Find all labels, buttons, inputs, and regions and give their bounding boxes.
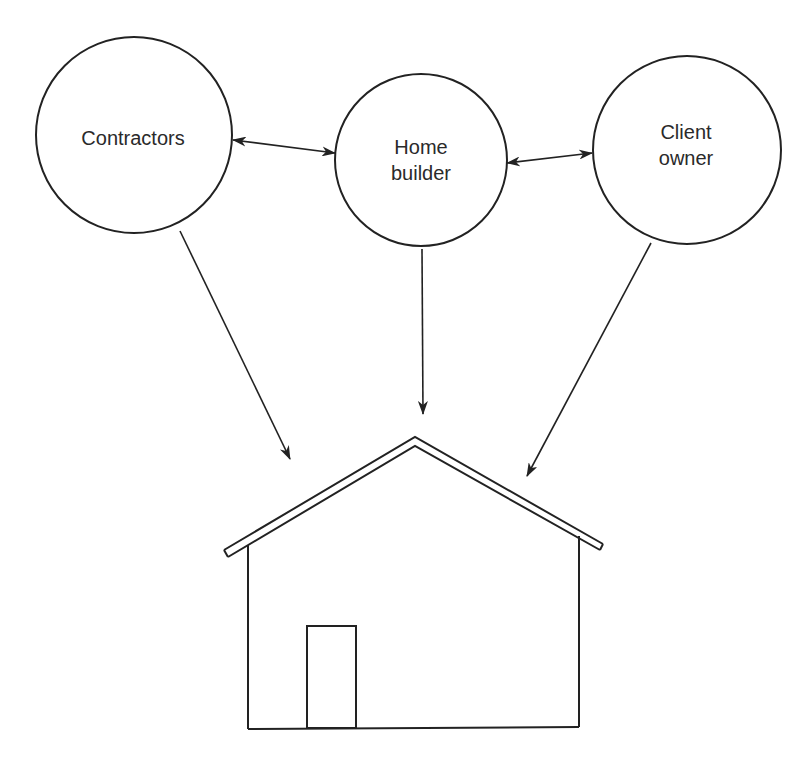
label-client-owner-line1: Client xyxy=(659,119,713,145)
label-contractors-line1: Contractors xyxy=(81,125,184,151)
house-icon xyxy=(224,437,603,729)
house-roof xyxy=(224,437,603,550)
label-home-builder-line1: Home xyxy=(391,134,451,160)
edge-clientowner-house xyxy=(527,243,651,476)
diagram-svg xyxy=(0,0,804,758)
label-home-builder-line2: builder xyxy=(391,160,451,186)
edge-homebuilder-clientowner xyxy=(507,153,592,163)
edge-homebuilder-house xyxy=(422,249,423,414)
label-client-owner: Client owner xyxy=(659,119,713,171)
label-home-builder: Home builder xyxy=(391,134,451,186)
label-contractors: Contractors xyxy=(81,125,184,151)
edge-contractors-homebuilder xyxy=(233,140,335,153)
diagram-canvas: Contractors Home builder Client owner xyxy=(0,0,804,758)
house-base xyxy=(248,727,579,729)
house-door xyxy=(307,626,356,728)
label-client-owner-line2: owner xyxy=(659,145,713,171)
edge-contractors-house xyxy=(180,231,290,459)
